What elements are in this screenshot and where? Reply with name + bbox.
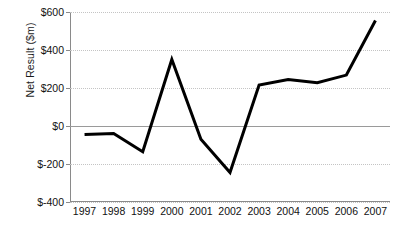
gridline-neg400 (70, 202, 390, 203)
plot-area (70, 12, 390, 202)
y-tick-label-0: $0 (20, 120, 64, 132)
y-tick-label-200: $200 (20, 82, 64, 94)
y-tick-label-400: $400 (20, 44, 64, 56)
chart-container: Net Result ($m) $600 $400 $200 $0 $-200 … (0, 0, 400, 237)
net-result-line-series (70, 12, 390, 202)
y-tick-label-600: $600 (20, 6, 64, 18)
series-polyline (85, 21, 376, 173)
y-tick-label-neg400: $-400 (20, 196, 64, 208)
y-tick-label-neg200: $-200 (20, 158, 64, 170)
x-tick-label-2007: 2007 (355, 205, 395, 217)
